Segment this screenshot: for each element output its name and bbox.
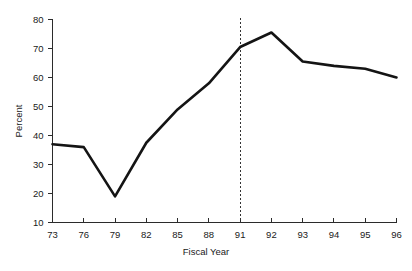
y-tick-label-60: 60: [33, 72, 44, 83]
y-tick-label-50: 50: [33, 101, 44, 112]
x-tick-label-94: 94: [329, 229, 340, 240]
y-tick-label-20: 20: [33, 188, 44, 199]
x-tick-label-96: 96: [391, 229, 402, 240]
x-axis-title: Fiscal Year: [183, 246, 229, 257]
x-tick-label-93: 93: [297, 229, 308, 240]
y-tick-label-80: 80: [33, 14, 44, 25]
y-tick-label-70: 70: [33, 43, 44, 54]
x-tick-label-79: 79: [110, 229, 121, 240]
x-tick-label-85: 85: [172, 229, 183, 240]
y-tick-label-40: 40: [33, 130, 44, 141]
x-tick-label-82: 82: [141, 229, 152, 240]
y-tick-label-10: 10: [33, 217, 44, 228]
chart-container: 1020304050607080 73767982858891929394959…: [0, 0, 412, 271]
x-tick-label-95: 95: [360, 229, 371, 240]
line-chart: 1020304050607080 73767982858891929394959…: [0, 0, 412, 271]
y-tick-label-30: 30: [33, 159, 44, 170]
x-tick-label-88: 88: [204, 229, 215, 240]
x-tick-label-73: 73: [47, 229, 58, 240]
x-tick-label-76: 76: [78, 229, 89, 240]
x-tick-label-92: 92: [266, 229, 277, 240]
y-axis-title: Percent: [13, 104, 24, 137]
x-tick-label-91: 91: [235, 229, 246, 240]
